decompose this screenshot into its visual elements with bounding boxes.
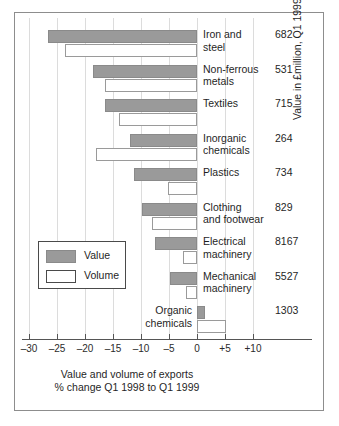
category-label: Mechanicalmachinery bbox=[203, 270, 281, 295]
category-label-line1: Clothing bbox=[203, 201, 281, 214]
x-tick-label: –25 bbox=[42, 343, 72, 354]
category-label-line2: machinery bbox=[203, 248, 281, 261]
category-label-line2: chemicals bbox=[203, 144, 281, 157]
x-tick bbox=[113, 334, 114, 340]
legend-swatch-volume bbox=[46, 270, 76, 283]
x-tick-label: –15 bbox=[98, 343, 128, 354]
category-label-line1: Organic bbox=[126, 304, 192, 317]
x-tick-label: –5 bbox=[154, 343, 184, 354]
category-amount: 829 bbox=[275, 201, 315, 214]
legend-label-value: Value bbox=[84, 249, 110, 261]
bar-volume bbox=[96, 148, 197, 161]
category-label: Textiles bbox=[203, 97, 281, 110]
bar-value bbox=[48, 30, 197, 43]
x-tick-label: 0 bbox=[182, 343, 212, 354]
category-label: Clothingand footwear bbox=[203, 201, 281, 226]
right-axis-label: Value in £million, Q1 1999 bbox=[291, 0, 303, 120]
x-axis-caption: Value and volume of exports % change Q1 … bbox=[22, 368, 232, 394]
x-tick-label: +10 bbox=[238, 343, 268, 354]
category-label-line2: machinery bbox=[203, 282, 281, 295]
category-label-line2: chemicals bbox=[126, 317, 192, 330]
bar-value bbox=[130, 134, 197, 147]
x-tick bbox=[29, 334, 30, 340]
category-label-line1: Inorganic bbox=[203, 132, 281, 145]
category-label: Organicchemicals bbox=[126, 304, 192, 329]
x-axis-caption-line1: Value and volume of exports bbox=[22, 368, 232, 381]
x-tick bbox=[169, 334, 170, 340]
x-tick-label: +5 bbox=[210, 343, 240, 354]
gridline bbox=[197, 18, 198, 334]
category-label: Inorganicchemicals bbox=[203, 132, 281, 157]
bar-value bbox=[170, 272, 197, 285]
category-amount: 1303 bbox=[275, 304, 315, 317]
x-tick bbox=[253, 334, 254, 340]
category-label-line1: Mechanical bbox=[203, 270, 281, 283]
category-amount: 734 bbox=[275, 166, 315, 179]
bar-volume bbox=[197, 320, 226, 333]
category-label-line1: Plastics bbox=[203, 166, 281, 179]
legend-label-volume: Volume bbox=[84, 269, 119, 281]
category-label: Non-ferrousmetals bbox=[203, 63, 281, 88]
x-axis-line bbox=[22, 339, 312, 340]
bar-value bbox=[155, 237, 197, 250]
category-label-line1: Non-ferrous bbox=[203, 63, 281, 76]
bar-value bbox=[134, 168, 197, 181]
category-label: Electricalmachinery bbox=[203, 235, 281, 260]
x-tick bbox=[57, 334, 58, 340]
x-tick bbox=[225, 334, 226, 340]
x-tick bbox=[197, 334, 198, 340]
chart-legend: Value Volume bbox=[38, 241, 126, 289]
legend-swatch-value bbox=[46, 250, 76, 263]
x-tick bbox=[141, 334, 142, 340]
bar-volume bbox=[65, 44, 197, 57]
bar-value bbox=[93, 65, 197, 78]
category-label: Iron andsteel bbox=[203, 28, 281, 53]
category-amount: 8167 bbox=[275, 235, 315, 248]
category-amount: 5527 bbox=[275, 270, 315, 283]
x-tick-label: –30 bbox=[14, 343, 44, 354]
bar-volume bbox=[105, 79, 197, 92]
bar-value bbox=[142, 203, 197, 216]
bar-volume bbox=[183, 251, 197, 264]
bar-volume bbox=[186, 286, 197, 299]
x-tick-label: –20 bbox=[70, 343, 100, 354]
bar-volume bbox=[152, 217, 197, 230]
bar-value bbox=[105, 99, 197, 112]
category-label-line2: metals bbox=[203, 75, 281, 88]
x-tick bbox=[85, 334, 86, 340]
category-amount: 264 bbox=[275, 132, 315, 145]
category-label-line1: Textiles bbox=[203, 97, 281, 110]
category-label-line1: Iron and bbox=[203, 28, 281, 41]
bar-volume bbox=[119, 113, 197, 126]
category-label-line2: steel bbox=[203, 41, 281, 54]
gridline bbox=[29, 18, 30, 334]
chart-figure: –30–25–20–15–10–50+5+10 Iron andsteel682… bbox=[0, 0, 339, 426]
category-label-line1: Electrical bbox=[203, 235, 281, 248]
bar-volume bbox=[168, 182, 197, 195]
category-label-line2: and footwear bbox=[203, 213, 281, 226]
x-tick-label: –10 bbox=[126, 343, 156, 354]
bar-value bbox=[197, 306, 205, 319]
category-label: Plastics bbox=[203, 166, 281, 179]
plot-area: –30–25–20–15–10–50+5+10 Iron andsteel682… bbox=[22, 18, 312, 338]
x-axis-caption-line2: % change Q1 1998 to Q1 1999 bbox=[22, 381, 232, 394]
